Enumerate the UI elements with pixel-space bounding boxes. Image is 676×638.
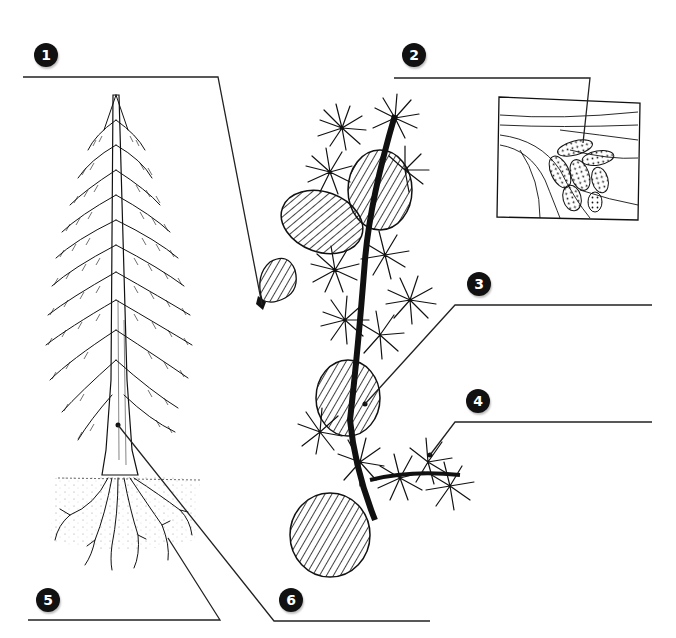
male-cone-inset	[497, 97, 640, 220]
answer-slot-2[interactable]	[400, 59, 580, 77]
answer-slot-4[interactable]	[460, 403, 650, 421]
diagram-canvas: 1 2 3 4 5 6	[0, 0, 676, 638]
answer-slot-5[interactable]	[32, 601, 217, 619]
answer-slot-6[interactable]	[280, 602, 428, 620]
answer-slot-1[interactable]	[28, 58, 218, 76]
female-cone	[272, 150, 412, 577]
branch-illustration	[272, 94, 474, 577]
answer-slot-3[interactable]	[460, 286, 650, 304]
